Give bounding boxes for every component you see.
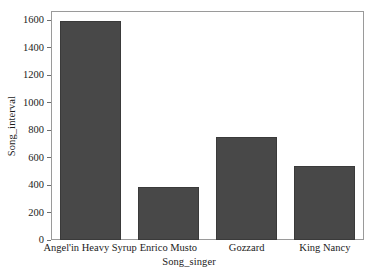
x-axis: Angel'in Heavy SyrupEnrico MustoGozzardK… <box>51 241 364 257</box>
y-axis-tick: 1600 <box>23 14 51 26</box>
y-axis-tick-mark <box>47 185 51 186</box>
y-axis-tick: 200 <box>28 207 51 219</box>
y-axis-tick-label: 1400 <box>23 42 47 54</box>
bar <box>60 21 121 240</box>
y-axis-tick-label: 400 <box>28 179 47 191</box>
y-axis-tick-label: 1200 <box>23 69 47 81</box>
bar <box>138 187 199 240</box>
y-axis-tick: 1000 <box>23 97 51 109</box>
x-axis-tick-label: King Nancy <box>299 242 350 253</box>
y-axis-tick-label: 1600 <box>23 14 47 26</box>
bars-layer <box>51 11 364 240</box>
y-axis-tick: 400 <box>28 179 51 191</box>
bar-chart: 16001400120010008006004002000 Song_inter… <box>0 0 378 280</box>
y-axis-tick-mark <box>47 130 51 131</box>
bar <box>294 166 355 240</box>
x-axis-title: Song_singer <box>0 256 378 267</box>
y-axis-tick-mark <box>47 20 51 21</box>
y-axis-tick-mark <box>47 157 51 158</box>
y-axis-tick-label: 800 <box>28 124 47 136</box>
y-axis-tick-mark <box>47 47 51 48</box>
x-axis-tick-label: Enrico Musto <box>140 242 197 253</box>
y-axis-tick-mark <box>47 102 51 103</box>
y-axis-tick: 1400 <box>23 42 51 54</box>
y-axis-title: Song_interval <box>6 96 17 156</box>
y-axis-tick-label: 600 <box>28 152 47 164</box>
y-axis-tick: 1200 <box>23 69 51 81</box>
y-axis-tick: 600 <box>28 152 51 164</box>
y-axis-tick-mark <box>47 212 51 213</box>
x-axis-tick-label: Gozzard <box>229 242 265 253</box>
y-axis-tick-label: 200 <box>28 207 47 219</box>
x-axis-tick-label: Angel'in Heavy Syrup <box>43 242 136 253</box>
y-axis-tick-label: 1000 <box>23 97 47 109</box>
y-axis-tick-mark <box>47 75 51 76</box>
y-axis-tick: 800 <box>28 124 51 136</box>
bar <box>216 137 277 240</box>
